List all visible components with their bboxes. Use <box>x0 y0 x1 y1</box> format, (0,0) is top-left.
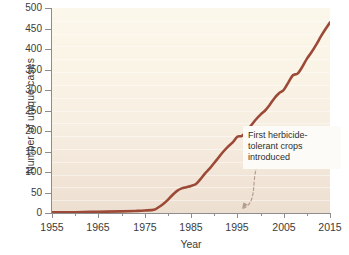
chart-figure: Number of unique cases 05010015020025030… <box>0 0 349 255</box>
x-axis-tick <box>52 213 53 218</box>
x-axis-tick-minor <box>122 213 123 216</box>
x-axis-tick-label: 1975 <box>125 221 165 233</box>
x-axis-tick <box>98 213 99 218</box>
x-axis-tick <box>284 213 285 218</box>
x-axis-tick-minor <box>168 213 169 216</box>
y-axis-tick-label: 300 <box>0 84 42 95</box>
y-axis-tick <box>45 152 51 153</box>
y-axis-tick-label: 400 <box>0 43 42 54</box>
plot-area <box>52 8 330 213</box>
y-axis-tick-label: 450 <box>0 23 42 34</box>
y-axis-tick-label: 500 <box>0 2 42 13</box>
data-series-group <box>52 22 330 212</box>
x-axis-tick <box>330 213 331 218</box>
x-axis-tick-label: 1955 <box>32 221 72 233</box>
y-axis-tick <box>45 70 51 71</box>
y-axis-tick <box>45 213 51 214</box>
x-axis-tick-label: 2015 <box>310 221 349 233</box>
x-axis-tick-label: 1995 <box>217 221 257 233</box>
annotation-line-3: introduced <box>248 152 337 163</box>
y-axis-tick-label: 50 <box>0 187 42 198</box>
y-axis-tick <box>45 29 51 30</box>
y-axis-tick <box>45 172 51 173</box>
plot-svg <box>52 8 330 213</box>
y-axis-tick-label: 100 <box>0 166 42 177</box>
data-series-line <box>52 22 330 212</box>
x-axis-tick-label: 2005 <box>264 221 304 233</box>
x-axis-tick <box>237 213 238 218</box>
annotation-connector-dashed <box>242 166 257 209</box>
y-axis-tick-label: 250 <box>0 105 42 116</box>
y-axis-tick <box>45 111 51 112</box>
x-axis-tick-minor <box>75 213 76 216</box>
x-axis-tick-label: 1965 <box>78 221 118 233</box>
x-axis-tick <box>191 213 192 218</box>
y-axis-tick <box>45 193 51 194</box>
x-axis-tick-label: 1985 <box>171 221 211 233</box>
annotation-callout: First herbicide- tolerant crops introduc… <box>243 126 341 169</box>
y-axis-tick <box>45 49 51 50</box>
x-axis-title: Year <box>52 238 330 250</box>
y-axis-tick <box>45 8 51 9</box>
annotation-connector-group <box>242 166 257 209</box>
annotation-line-2: tolerant crops <box>248 141 337 152</box>
y-axis-tick-label: 350 <box>0 64 42 75</box>
x-axis-tick-minor <box>307 213 308 216</box>
y-axis-tick-label: 200 <box>0 125 42 136</box>
y-axis-tick-label: 0 <box>0 207 42 218</box>
y-axis-tick <box>45 131 51 132</box>
y-axis-tick-label: 150 <box>0 146 42 157</box>
x-axis-tick <box>145 213 146 218</box>
annotation-line-1: First herbicide- <box>248 130 337 141</box>
x-axis-tick-minor <box>214 213 215 216</box>
x-axis-tick-minor <box>261 213 262 216</box>
y-axis-tick <box>45 90 51 91</box>
